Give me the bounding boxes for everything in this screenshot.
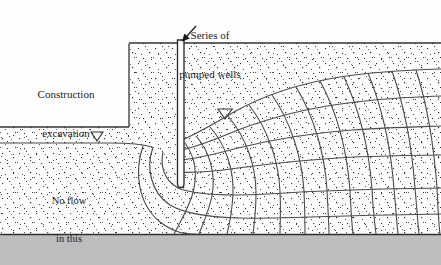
- excavation-label-line1: Construction: [10, 88, 122, 101]
- excavation-label: Construction excavation: [10, 62, 122, 166]
- no-flow-label: No flow in this area: [24, 170, 114, 265]
- well-callout-label: Series of pumped wells: [150, 3, 270, 107]
- well-callout-line1: Series of: [150, 29, 270, 42]
- no-flow-line1: No flow: [24, 195, 114, 208]
- excavation-label-line2: excavation: [10, 127, 122, 140]
- no-flow-line2: in this: [24, 233, 114, 246]
- well-callout-line2: pumped wells: [150, 68, 270, 81]
- flow-net-figure: Series of pumped wells Construction exca…: [0, 0, 441, 265]
